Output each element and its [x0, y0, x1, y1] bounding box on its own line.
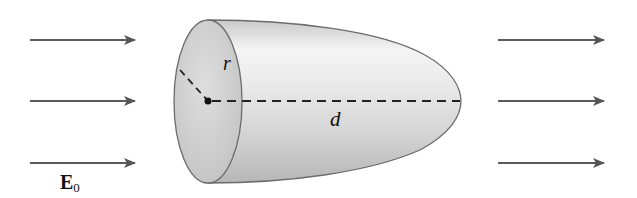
diagram-canvas: r d E0	[0, 0, 637, 198]
field-symbol: E	[60, 171, 73, 193]
field-subscript: 0	[73, 180, 80, 195]
radius-label: r	[223, 52, 231, 75]
length-label: d	[330, 107, 341, 132]
field-arrows-right	[498, 40, 604, 163]
field-arrows-left	[30, 40, 135, 163]
field-label: E0	[60, 171, 80, 196]
center-point	[205, 98, 212, 105]
